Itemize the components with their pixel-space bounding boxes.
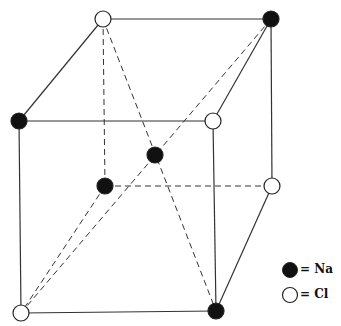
cl-atom-front-bottom-left	[13, 305, 29, 321]
cl-legend-icon	[283, 288, 298, 303]
na-atom-back-bottom-left	[97, 178, 113, 194]
na-legend-icon	[283, 263, 298, 278]
edge-back-top-right-to-back-bottom-right	[271, 19, 272, 186]
cl-atom-front-top-right	[205, 113, 221, 129]
na-atom-center	[147, 147, 163, 163]
legend	[283, 263, 298, 303]
legend-label-cl: = Cl	[300, 287, 328, 301]
edge-back-top-left-to-front-top-left	[19, 19, 103, 121]
legend-label-na: = Na	[300, 262, 333, 276]
edge-front-top-left-to-front-bottom-left	[19, 121, 21, 313]
dashed-edge-back-bottom-left-to-front-bottom-left	[21, 186, 105, 313]
cl-atom-back-top-left	[95, 11, 111, 27]
na-atom-back-top-right	[263, 11, 279, 27]
na-atom-front-top-left	[11, 113, 27, 129]
dashed-edge-back-top-left-to-back-bottom-left	[103, 19, 105, 186]
dashed-edge-back-top-left-to-front-bottom-right	[103, 19, 216, 311]
nacl-unit-cell-diagram	[0, 0, 341, 326]
edge-front-bottom-right-to-back-bottom-right	[216, 186, 272, 311]
edge-back-top-right-to-front-top-right	[213, 19, 271, 121]
na-atom-front-bottom-right	[208, 303, 224, 319]
dashed-edge-back-top-right-to-front-bottom-left	[21, 19, 271, 313]
edge-front-bottom-left-to-front-bottom-right	[21, 311, 216, 313]
edge-front-top-right-to-front-bottom-right	[213, 121, 216, 311]
cl-atom-back-bottom-right	[264, 178, 280, 194]
